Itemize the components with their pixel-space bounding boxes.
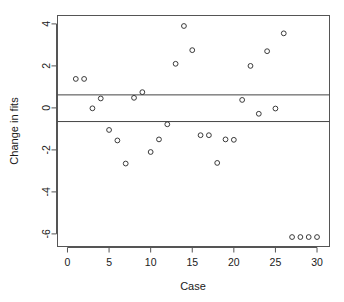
plot-canvas: 051015202530 420-2-4-6 Case Change in fi… [0, 0, 344, 302]
y-tick-label: -6 [41, 229, 53, 238]
x-tick-label: 0 [65, 256, 71, 268]
y-tick-label: -4 [41, 187, 53, 196]
x-tick-label: 25 [270, 256, 282, 268]
y-tick-label: -2 [41, 145, 53, 154]
y-tick-label: 2 [41, 63, 53, 69]
y-tick-label: 4 [41, 21, 53, 27]
x-tick-label: 30 [311, 256, 323, 268]
x-tick-label: 10 [145, 256, 157, 268]
y-axis-title: Change in fits [8, 97, 20, 165]
scatter-plot-figure: 051015202530 420-2-4-6 Case Change in fi… [0, 0, 344, 302]
x-tick-label: 5 [106, 256, 112, 268]
x-tick-label: 15 [186, 256, 198, 268]
y-tick-label: 0 [41, 105, 53, 111]
x-axis-title: Case [180, 280, 206, 292]
x-tick-label: 20 [228, 256, 240, 268]
